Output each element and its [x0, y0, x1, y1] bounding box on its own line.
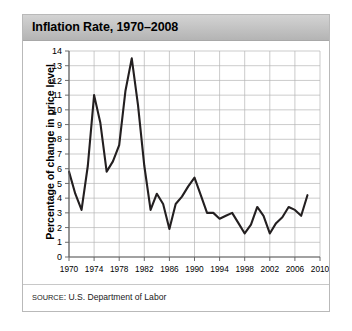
svg-text:4: 4 [57, 193, 62, 203]
x-axis-ticks: 1970197419781982198619901994199820022006… [60, 257, 329, 274]
svg-text:1974: 1974 [85, 264, 104, 274]
source-value: : U.S. Department of Labor [64, 292, 167, 302]
svg-text:6: 6 [57, 164, 62, 174]
svg-text:8: 8 [57, 134, 62, 144]
svg-text:1: 1 [57, 237, 62, 247]
source-label: SOURCE [32, 293, 64, 302]
svg-text:2: 2 [57, 223, 62, 233]
svg-text:1990: 1990 [185, 264, 204, 274]
svg-text:1982: 1982 [135, 264, 154, 274]
svg-text:2010: 2010 [311, 264, 329, 274]
svg-text:9: 9 [57, 120, 62, 130]
source-bar: SOURCE: U.S. Department of Labor [23, 284, 329, 311]
plot-area: 01234567891011121314 1970197419781982198… [23, 41, 329, 285]
y-axis-title: Percentage of change in price level [44, 62, 56, 242]
svg-text:1986: 1986 [160, 264, 179, 274]
line-chart-svg: 01234567891011121314 1970197419781982198… [23, 41, 329, 285]
svg-text:2002: 2002 [261, 264, 280, 274]
source-note: SOURCE: U.S. Department of Labor [32, 292, 166, 302]
page-title: Inflation Rate, 1970–2008 [32, 20, 178, 34]
inflation-rate-line [69, 58, 307, 233]
svg-text:3: 3 [57, 208, 62, 218]
svg-text:2006: 2006 [286, 264, 305, 274]
grid-lines [69, 51, 320, 257]
chart-figure: Inflation Rate, 1970–2008 01234567891011… [22, 14, 330, 312]
svg-text:1978: 1978 [110, 264, 129, 274]
svg-text:1994: 1994 [210, 264, 229, 274]
svg-text:14: 14 [52, 46, 62, 56]
chart-title-bar: Inflation Rate, 1970–2008 [23, 15, 329, 41]
svg-text:5: 5 [57, 179, 62, 189]
svg-text:7: 7 [57, 149, 62, 159]
svg-text:1970: 1970 [60, 264, 79, 274]
svg-text:0: 0 [57, 252, 62, 262]
svg-text:1998: 1998 [235, 264, 254, 274]
